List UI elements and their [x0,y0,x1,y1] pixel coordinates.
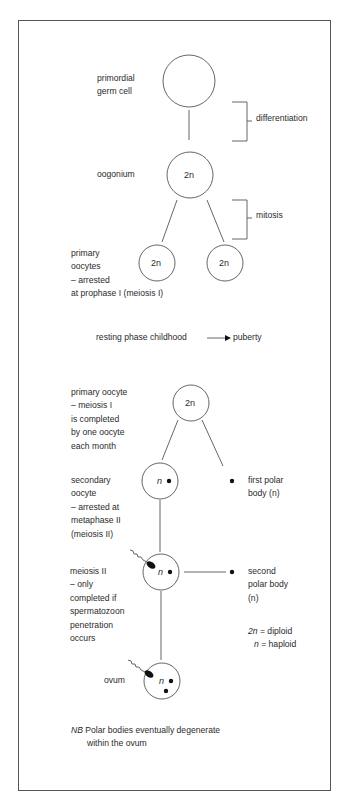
label-line: primary oocyte [71,386,127,399]
connector-line [202,420,223,466]
label-line: oocyte [71,487,121,500]
sperm-head-icon [143,669,155,680]
label-line: each month [71,440,127,453]
connector-line [162,200,177,242]
label-line: (meiosis II) [71,528,121,541]
label-line: is completed [71,413,127,426]
footnote-line-2: within the ovum [71,737,220,750]
label-differentiation: differentiation [256,112,307,125]
label-second-polar-body: second polar body (n) [248,565,288,605]
label-ovum: ovum [104,674,125,687]
legend-text: = diploid [260,626,292,636]
connector-line [162,420,178,460]
label-first-polar-body: first polar body (n) [248,474,283,501]
cell-content: 2n [184,170,194,180]
label-line: oocytes [71,260,163,273]
second-polar-body-dot-icon [230,570,234,574]
cell-content: 2n [219,258,229,268]
sperm-tail-icon [130,550,147,562]
arrow-head-icon [225,335,231,341]
label-line: primary [71,247,163,260]
label-primary-oocytes: primary oocytes – arrested at prophase I… [71,247,163,301]
cell-content: n [157,476,162,486]
label-line: second [248,565,288,578]
label-mitosis: mitosis [256,209,283,222]
label-line: primordial [97,72,135,85]
label-line: – arrested at [71,501,121,514]
legend-haploid: n = haploid [248,638,296,651]
footnote: NB Polar bodies eventually degenerate wi… [71,724,220,751]
label-line: – only [70,578,124,591]
label-line: by one oocyte [71,426,127,439]
label-line: secondary [71,474,121,487]
chromosome-dot-icon [169,679,173,683]
label-line: polar body [248,578,288,591]
label-line: occurs [70,632,124,645]
footnote-text: Polar bodies eventually degenerate [85,725,220,735]
legend: 2n = diploid n = haploid [248,625,296,652]
legend-symbol: n [254,639,259,649]
label-secondary-oocyte: secondary oocyte – arrested at metaphase… [71,474,121,541]
primordial-germ-cell-circle [163,55,215,107]
label-primordial-germ-cell: primordial germ cell [97,72,135,99]
cell-content: 2n [185,398,195,408]
connector-line [207,200,224,242]
differentiation-bracket [232,102,252,141]
label-line: – arrested [71,274,163,287]
footnote-line-1: NB Polar bodies eventually degenerate [71,724,220,737]
first-polar-body-dot-icon [230,479,234,483]
chromosome-dot-icon [164,689,168,693]
label-line: meiosis II [70,565,124,578]
label-meiosis-ii: meiosis II – only completed if spermatoz… [70,565,124,645]
label-line: body (n) [248,487,283,500]
label-line: completed if [70,592,124,605]
chromosome-dot-icon [168,570,172,574]
mitosis-bracket [232,200,252,239]
label-oogonium: oogonium [97,168,135,181]
label-primary-oocyte-resumed: primary oocyte – meiosis I is completed … [71,386,127,453]
label-line: – meiosis I [71,399,127,412]
chromosome-dot-icon [167,479,171,483]
label-line: (n) [248,592,288,605]
label-line: first polar [248,474,283,487]
label-line: germ cell [97,85,135,98]
cell-content: n [158,567,163,577]
label-resting-phase: resting phase childhood [96,331,187,344]
label-line: penetration [70,619,124,632]
footnote-prefix: NB [71,725,83,735]
legend-diploid: 2n = diploid [248,625,296,638]
label-line: spermatozoon [70,605,124,618]
sperm-tail-icon [128,660,145,672]
cell-content: n [159,676,164,686]
legend-symbol: 2n [248,626,258,636]
label-puberty: puberty [233,331,262,344]
legend-text: = haploid [261,639,296,649]
label-line: at prophase I (meiosis I) [71,287,163,300]
label-line: metaphase II [71,514,121,527]
